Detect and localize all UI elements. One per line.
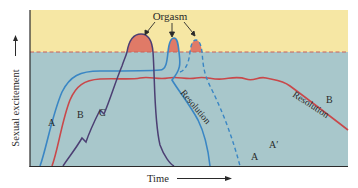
curve-b-end-label: B (326, 94, 333, 105)
x-axis-arrow-icon (177, 176, 232, 181)
orgasm-zone (30, 10, 348, 52)
x-axis-label: Time (147, 173, 169, 184)
y-axis-arrow-icon (13, 35, 18, 56)
orgasm-label: Orgasm (153, 10, 188, 22)
curve-a-label: A (48, 117, 56, 128)
curve-a-prime-label: A′ (269, 139, 278, 150)
curve-b-label: B (77, 109, 84, 120)
y-axis-label: Sexual excitement (10, 69, 21, 146)
curve-c-label: C (99, 107, 106, 118)
curve-a-end-label: A (251, 151, 259, 162)
sexual-response-cycle-diagram: Orgasm Resolution Resolution A B C A A′ … (0, 0, 358, 188)
